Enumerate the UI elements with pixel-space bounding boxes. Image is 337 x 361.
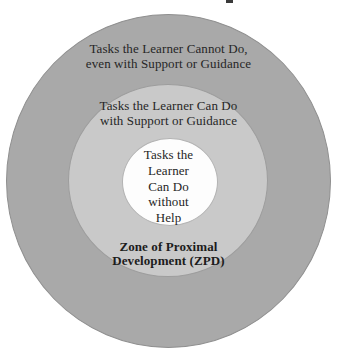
zpd-diagram: Tasks the Learner Cannot Do, even with S…	[0, 0, 337, 361]
cropped-text-artifact	[226, 0, 233, 3]
outer-ring-label: Tasks the Learner Cannot Do, even with S…	[0, 41, 337, 71]
middle-ring-label: Tasks the Learner Can Do with Support or…	[0, 98, 337, 128]
inner-circle-label: Tasks the Learner Can Do without Help	[0, 147, 337, 226]
zpd-title-label: Zone of Proximal Development (ZPD)	[0, 240, 337, 267]
